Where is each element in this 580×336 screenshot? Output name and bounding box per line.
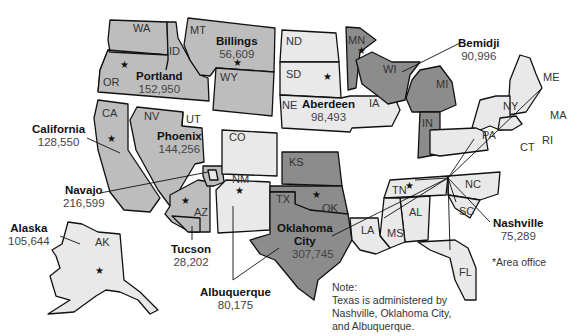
area-office-star-albuquerque: ★	[235, 186, 244, 196]
area-label-california: California 128,550	[32, 123, 85, 149]
area-label-tucson: Tucson 28,202	[171, 243, 211, 269]
area-office-star-bemidji: ★	[357, 46, 366, 56]
area-office-star-oklahoma: ★	[312, 190, 321, 200]
state-label-ne: NE	[282, 99, 297, 111]
area-office-star-nashville: ★	[405, 181, 414, 191]
area-office-star-california: ★	[107, 134, 116, 144]
area-label-bemidji: Bemidji 90,996	[458, 37, 500, 63]
state-label-ms: MS	[387, 227, 404, 239]
state-label-nv: NV	[144, 110, 159, 122]
state-label-wi: WI	[383, 63, 396, 75]
area-office-star-alaska: ★	[95, 266, 104, 276]
area-label-oklahoma-city: Oklahoma City 307,745	[276, 222, 334, 261]
state-label-ut: UT	[186, 113, 201, 125]
area-office-star-portland: ★	[120, 60, 129, 70]
state-label-al: AL	[409, 206, 422, 218]
area-label-alaska: Alaska 105,644	[8, 222, 50, 248]
area-label-portland: Portland 152,950	[136, 70, 183, 96]
state-label-or: OR	[103, 76, 120, 88]
state-label-wy: WY	[220, 71, 238, 83]
state-label-mt: MT	[190, 24, 206, 36]
area-label-aberdeen: Aberdeen 98,493	[302, 98, 355, 124]
state-label-ak: AK	[95, 236, 110, 248]
state-label-ia: IA	[369, 97, 379, 109]
state-label-sc: SC	[459, 205, 474, 217]
state-label-in: IN	[422, 117, 433, 129]
state-label-pa: PA	[482, 129, 496, 141]
state-label-ok: OK	[322, 202, 338, 214]
state-label-wa: WA	[133, 22, 150, 34]
region-navajo	[203, 166, 224, 186]
area-office-star-phoenix: ★	[181, 196, 190, 206]
area-label-navajo: Navajo 216,599	[63, 184, 105, 210]
state-label-la: LA	[361, 224, 374, 236]
state-label-mi: MI	[436, 78, 448, 90]
texas-note: Note: Texas is administered by Nashville…	[332, 281, 451, 333]
state-label-me: ME	[543, 71, 560, 83]
state-label-ma: MA	[550, 109, 567, 121]
state-label-id: ID	[169, 45, 180, 57]
area-office-star-billings: ★	[233, 58, 242, 68]
state-label-co: CO	[229, 131, 246, 143]
state-label-ks: KS	[289, 156, 304, 168]
state-label-sd: SD	[286, 68, 301, 80]
area-label-nashville: Nashville 75,289	[493, 217, 544, 243]
state-label-nd: ND	[286, 35, 302, 47]
area-office-star-aberdeen: ★	[323, 72, 332, 82]
legend: *Area office	[492, 256, 546, 268]
area-label-phoenix: Phoenix 144,256	[157, 130, 202, 156]
state-label-ri: RI	[542, 134, 553, 146]
state-label-ca: CA	[102, 107, 117, 119]
area-label-albuquerque: Albuquerque 80,175	[200, 286, 271, 312]
state-label-nm: NM	[232, 173, 249, 185]
legend-label: Area office	[496, 256, 546, 268]
state-label-ct: CT	[520, 141, 535, 153]
state-label-nc: NC	[465, 178, 481, 190]
state-label-az: AZ	[194, 206, 208, 218]
state-label-fl: FL	[459, 266, 472, 278]
state-label-tx: TX	[276, 193, 290, 205]
state-label-ny: NY	[503, 100, 518, 112]
